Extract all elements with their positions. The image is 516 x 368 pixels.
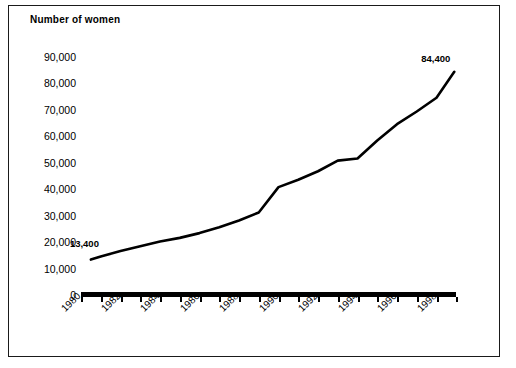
x-axis-tick: [456, 297, 458, 302]
data-point-label: 13,400: [70, 238, 99, 249]
chart-page: Number of women 90,00080,00070,00060,000…: [0, 0, 516, 368]
data-point-label: 84,400: [421, 53, 450, 64]
